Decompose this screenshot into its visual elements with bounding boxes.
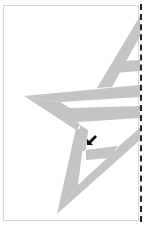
star-upper-arm	[97, 16, 140, 88]
cursor-arrow-icon	[86, 134, 98, 146]
page-boundary-dashed-line	[140, 4, 142, 222]
star-artwork[interactable]	[0, 0, 151, 225]
